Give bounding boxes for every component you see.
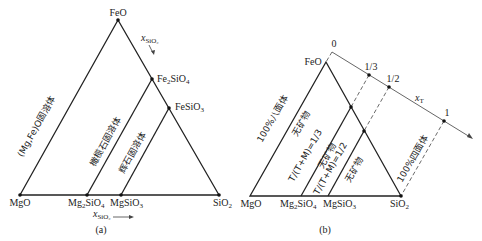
mg2sio4-label-b: Mg2SiO4 [280, 198, 317, 211]
xt-tick-1-3: 1/3 [365, 61, 378, 72]
panel-a-caption: (a) [95, 224, 106, 236]
mg2sio4-label-a: Mg2SiO4 [68, 197, 105, 210]
fe2sio4-point [150, 77, 154, 81]
phase-diagram-figure: FeO MgO SiO2 Fe2SiO4 FeSiO3 Mg2SiO4 MgSi… [0, 0, 482, 241]
mgsio3-label-a: MgSiO3 [110, 197, 143, 210]
tick-1-3-point [367, 73, 371, 77]
panel-b-caption: (b) [319, 224, 331, 236]
tetrahedra-100-label: 100%四面体 [394, 133, 430, 184]
projection-1-2-dashed [364, 87, 389, 131]
panel-a: FeO MgO SiO2 Fe2SiO4 FeSiO3 Mg2SiO4 MgSi… [9, 7, 232, 236]
sio2-label-a: SiO2 [213, 197, 233, 210]
mgo-label-b: MgO [240, 198, 261, 209]
xt-tick-1-2: 1/2 [387, 73, 400, 84]
fesio3-label: FeSiO3 [175, 101, 205, 114]
projection-1-3-dashed [351, 75, 369, 107]
panel-b: 0 1/3 1/2 1 xT FeO MgO SiO2 Mg2SiO4 MgSi… [240, 38, 473, 236]
feo-label-b: FeO [304, 56, 321, 67]
edge-1-3-point [349, 105, 353, 109]
mgfeo-solid-solution-label: (Mg,Fe)O固溶体 [15, 94, 58, 158]
feo-label-a: FeO [109, 7, 126, 18]
xsio2-arrowhead-bottom [129, 215, 134, 219]
mgsio3-label-b: MgSiO3 [323, 198, 356, 211]
feo-point-a [116, 18, 120, 22]
pyroxene-solid-solution-label: 辉石固溶体 [116, 130, 148, 175]
xt-axis-line [332, 52, 470, 137]
mgo-label-a: MgO [9, 197, 30, 208]
no-mineral-label-1: 无矿物 [290, 109, 313, 138]
tick-1-point [442, 119, 446, 123]
sio2-label-b: SiO2 [390, 198, 410, 211]
fesio3-point [167, 106, 171, 110]
fe2sio4-label: Fe2SiO4 [157, 73, 190, 86]
edge-1-2-point [362, 129, 366, 133]
xt-axis-arrowhead [467, 133, 473, 139]
xsio2-label-top: xSiO₂ [140, 32, 159, 45]
ratio-1-3-label: T/(T+M)=1/3 [286, 128, 324, 185]
no-mineral-label-3: 无矿物 [343, 155, 366, 184]
projection-0-dashed [326, 52, 332, 62]
tick-1-2-point [387, 85, 391, 89]
xt-tick-0: 0 [332, 38, 337, 49]
xt-tick-1: 1 [445, 107, 450, 118]
